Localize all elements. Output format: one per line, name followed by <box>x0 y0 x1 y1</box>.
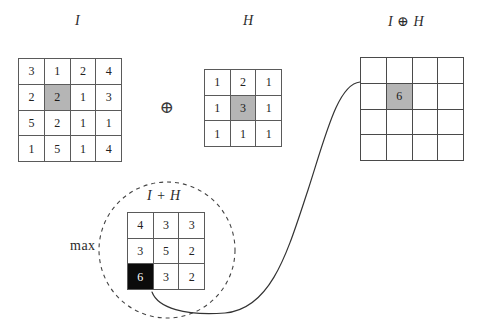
matrix-cell: 1 <box>71 85 96 110</box>
matrix-cell <box>413 58 438 83</box>
matrix-cell: 3 <box>128 239 153 264</box>
matrix-cell: 3 <box>231 96 256 121</box>
max-operation-label: max <box>70 238 96 254</box>
matrix-cell <box>413 110 438 135</box>
matrix-cell: 1 <box>205 121 230 146</box>
sum-matrix: 433352632 <box>127 212 205 290</box>
matrix-cell: 1 <box>96 111 121 136</box>
matrix-cell: 3 <box>179 213 204 238</box>
sum-matrix-label: I + H <box>147 188 181 204</box>
matrix-cell: 5 <box>154 239 179 264</box>
matrix-cell: 1 <box>71 111 96 136</box>
matrix-cell: 2 <box>231 70 256 95</box>
matrix-cell: 1 <box>45 59 70 84</box>
matrix-cell <box>387 135 412 160</box>
matrix-cell <box>361 110 386 135</box>
matrix-cell: 1 <box>256 121 281 146</box>
matrix-cell: 3 <box>19 59 44 84</box>
matrix-cell: 1 <box>256 96 281 121</box>
matrix-cell: 1 <box>205 96 230 121</box>
matrix-cell <box>438 110 463 135</box>
overlay-graphics <box>0 0 488 329</box>
matrix-cell: 2 <box>45 85 70 110</box>
matrix-cell: 3 <box>154 264 179 289</box>
kernel-matrix-label: H <box>243 13 254 29</box>
matrix-cell <box>438 58 463 83</box>
matrix-cell: 2 <box>19 85 44 110</box>
matrix-cell: 4 <box>128 213 153 238</box>
matrix-cell: 6 <box>387 84 412 109</box>
matrix-cell <box>438 84 463 109</box>
matrix-cell: 1 <box>71 136 96 161</box>
matrix-cell: 2 <box>71 59 96 84</box>
output-matrix-label: I ⊕ H <box>388 13 424 30</box>
matrix-cell: 5 <box>45 136 70 161</box>
matrix-cell: 1 <box>19 136 44 161</box>
matrix-cell: 1 <box>231 121 256 146</box>
matrix-cell <box>361 84 386 109</box>
matrix-cell: 3 <box>96 85 121 110</box>
matrix-cell: 2 <box>45 111 70 136</box>
kernel-matrix: 121131111 <box>204 69 282 147</box>
oplus-operator-icon: ⊕ <box>157 98 176 117</box>
matrix-cell: 1 <box>256 70 281 95</box>
matrix-cell <box>413 84 438 109</box>
matrix-cell <box>387 110 412 135</box>
matrix-cell: 5 <box>19 111 44 136</box>
matrix-cell <box>361 135 386 160</box>
matrix-cell: 2 <box>179 264 204 289</box>
matrix-cell: 4 <box>96 59 121 84</box>
matrix-cell <box>361 58 386 83</box>
matrix-cell: 2 <box>179 239 204 264</box>
input-matrix: 3124221352111514 <box>18 58 122 162</box>
matrix-cell: 3 <box>154 213 179 238</box>
matrix-cell <box>438 135 463 160</box>
matrix-cell <box>413 135 438 160</box>
matrix-cell: 1 <box>205 70 230 95</box>
matrix-cell <box>387 58 412 83</box>
matrix-cell: 4 <box>96 136 121 161</box>
input-matrix-label: I <box>75 13 80 29</box>
output-matrix: 6 <box>360 57 464 161</box>
matrix-cell: 6 <box>128 264 153 289</box>
dilation-diagram: I H I ⊕ H I + H max ⊕ 3124221352111514 1… <box>0 0 488 329</box>
